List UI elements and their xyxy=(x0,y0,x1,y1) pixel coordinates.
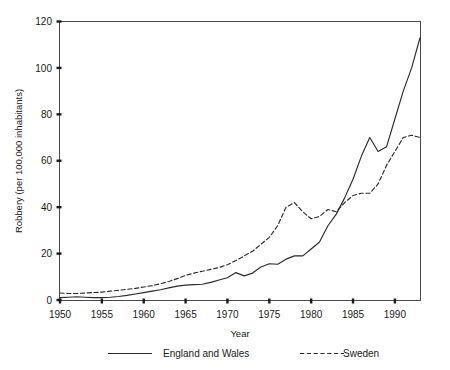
x-tick-label-1960: 1960 xyxy=(133,309,156,320)
y-axis-title: Robbery (per 100,000 inhabitants) xyxy=(13,89,24,233)
x-tick-label-1985: 1985 xyxy=(342,309,365,320)
robbery-rate-line-chart: 020406080100120 195019551960196519701975… xyxy=(0,0,450,370)
chart-figure: 020406080100120 195019551960196519701975… xyxy=(0,0,450,370)
y-tick-label-100: 100 xyxy=(35,63,52,74)
y-tick-label-40: 40 xyxy=(41,202,53,213)
x-tick-label-1955: 1955 xyxy=(91,309,114,320)
legend-label-england-and-wales: England and Wales xyxy=(163,348,249,359)
x-tick-label-1970: 1970 xyxy=(216,309,239,320)
x-axis-title: Year xyxy=(230,328,249,339)
legend-label-sweden: Sweden xyxy=(343,348,379,359)
x-tick-label-1950: 1950 xyxy=(49,309,72,320)
y-tick-label-20: 20 xyxy=(41,248,53,259)
x-tick-label-1965: 1965 xyxy=(174,309,197,320)
x-tick-label-1980: 1980 xyxy=(300,309,323,320)
y-tick-label-60: 60 xyxy=(41,155,53,166)
y-tick-label-0: 0 xyxy=(46,295,52,306)
y-tick-label-120: 120 xyxy=(35,16,52,27)
x-tick-label-1990: 1990 xyxy=(384,309,407,320)
x-tick-label-1975: 1975 xyxy=(258,309,281,320)
x-axis-tick-labels: 195019551960196519701975198019851990 xyxy=(49,309,407,320)
y-tick-label-80: 80 xyxy=(41,109,53,120)
